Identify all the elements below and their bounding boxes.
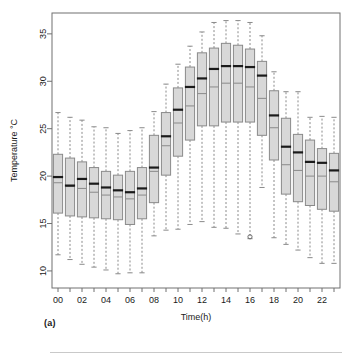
box-group bbox=[293, 92, 303, 250]
y-axis-tick-label: 30 bbox=[38, 76, 48, 86]
box-group bbox=[197, 32, 207, 222]
box-group bbox=[329, 117, 339, 263]
x-axis-tick-label: 00 bbox=[53, 295, 63, 305]
box-body bbox=[173, 88, 182, 156]
box-body bbox=[281, 118, 290, 194]
box-group bbox=[305, 117, 315, 257]
box-group bbox=[245, 22, 255, 238]
box-group bbox=[89, 127, 99, 267]
y-axis-tick-label: 15 bbox=[38, 219, 48, 229]
box-group bbox=[185, 46, 195, 224]
x-axis-title: Time(h) bbox=[181, 312, 212, 322]
boxplot-svg: 101520253035Temperature °C00020406081012… bbox=[0, 0, 353, 360]
box-body bbox=[245, 49, 254, 122]
box-body bbox=[77, 162, 86, 217]
box-body bbox=[305, 140, 314, 205]
x-axis-tick-label: 20 bbox=[293, 295, 303, 305]
box-body bbox=[149, 135, 158, 202]
box-group bbox=[257, 36, 267, 188]
box-group bbox=[269, 72, 279, 238]
box-body bbox=[137, 168, 146, 219]
box-group bbox=[125, 131, 135, 273]
box-group bbox=[113, 133, 123, 273]
x-axis-tick-label: 18 bbox=[269, 295, 279, 305]
bottom-divider bbox=[50, 352, 342, 353]
y-axis-tick-label: 35 bbox=[38, 29, 48, 39]
x-axis-tick-label: 16 bbox=[245, 295, 255, 305]
box-body bbox=[269, 91, 278, 160]
box-body bbox=[161, 113, 170, 176]
box-group bbox=[77, 120, 87, 264]
x-axis-tick-label: 14 bbox=[221, 295, 231, 305]
y-axis-tick-label: 10 bbox=[38, 266, 48, 276]
box-body bbox=[125, 171, 134, 224]
box-body bbox=[197, 53, 206, 126]
box-group bbox=[233, 21, 243, 234]
box-group bbox=[161, 84, 171, 230]
x-axis-tick-label: 22 bbox=[317, 295, 327, 305]
box-group bbox=[149, 112, 159, 236]
x-axis-tick-label: 08 bbox=[149, 295, 159, 305]
box-group bbox=[53, 113, 63, 255]
box-body bbox=[293, 134, 302, 201]
box-group bbox=[281, 92, 291, 245]
box-group bbox=[137, 128, 147, 273]
box-group bbox=[173, 64, 183, 229]
y-axis-title: Temperature °C bbox=[9, 118, 19, 182]
y-axis-tick-label: 25 bbox=[38, 124, 48, 134]
box-group bbox=[65, 117, 75, 259]
boxplot-figure: 101520253035Temperature °C00020406081012… bbox=[0, 0, 353, 360]
box-group bbox=[221, 21, 231, 229]
figure-panel-label: (a) bbox=[44, 318, 56, 328]
x-axis-tick-label: 12 bbox=[197, 295, 207, 305]
x-axis-tick-label: 10 bbox=[173, 295, 183, 305]
x-axis-tick-label: 04 bbox=[101, 295, 111, 305]
box-group bbox=[317, 116, 327, 263]
box-body bbox=[317, 149, 326, 210]
box-body bbox=[53, 154, 62, 213]
box-group bbox=[101, 128, 111, 270]
y-axis-tick-label: 20 bbox=[38, 171, 48, 181]
box-body bbox=[185, 67, 194, 140]
box-group bbox=[209, 22, 219, 227]
x-axis-tick-label: 06 bbox=[125, 295, 135, 305]
x-axis-tick-label: 02 bbox=[77, 295, 87, 305]
